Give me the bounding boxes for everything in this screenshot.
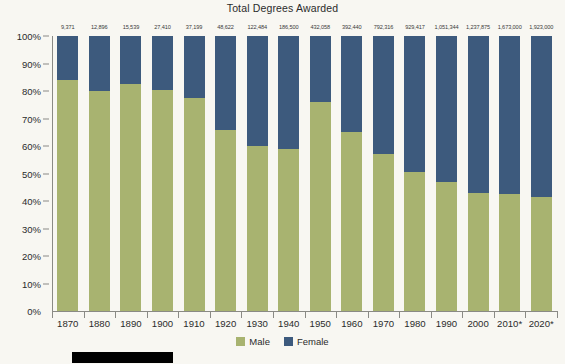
bar-1910: [184, 36, 205, 311]
bar-segment-male: [184, 98, 205, 311]
y-axis-tick: [43, 63, 49, 64]
x-axis-tick: [52, 311, 53, 318]
y-axis-label: 100%: [17, 31, 41, 42]
x-axis-tick: [525, 311, 526, 318]
bar-segment-female: [310, 36, 331, 102]
y-axis-tick: [43, 228, 49, 229]
x-axis-tick: [84, 311, 85, 318]
x-axis-tick: [178, 311, 179, 318]
y-axis-label: 70%: [22, 113, 41, 124]
bar-segment-male: [247, 146, 268, 311]
bar-1990: [436, 36, 457, 311]
y-axis-tick: [43, 173, 49, 174]
x-axis-tick: [368, 311, 369, 318]
bar-1900: [152, 36, 173, 311]
y-axis-tick: [43, 118, 49, 119]
bar-segment-female: [152, 36, 173, 90]
y-axis-label: 60%: [22, 141, 41, 152]
x-axis-tick: [557, 311, 558, 318]
bar-segment-female: [184, 36, 205, 98]
bar-segment-male: [373, 154, 394, 311]
bar-segment-male: [531, 197, 552, 311]
bar-1920: [215, 36, 236, 311]
bar-segment-male: [57, 80, 78, 311]
bar-segment-female: [247, 36, 268, 146]
bar-segment-female: [531, 36, 552, 197]
bar-1940: [278, 36, 299, 311]
bar-segment-male: [89, 91, 110, 311]
y-axis-label: 90%: [22, 58, 41, 69]
y-axis-label: 0%: [27, 306, 41, 317]
bar-segment-female: [89, 36, 110, 91]
bar-segment-female: [120, 36, 141, 84]
legend-label: Female: [297, 336, 329, 347]
bar-segment-male: [499, 194, 520, 311]
bar-segment-male: [404, 172, 425, 311]
x-axis-tick: [336, 311, 337, 318]
legend-label: Male: [249, 336, 270, 347]
y-axis-label: 20%: [22, 251, 41, 262]
y-axis-label: 30%: [22, 223, 41, 234]
bar-segment-female: [278, 36, 299, 149]
y-axis-label: 80%: [22, 86, 41, 97]
bar-2010: [499, 36, 520, 311]
x-axis-tick: [305, 311, 306, 318]
chart-title: Total Degrees Awarded: [0, 2, 565, 14]
x-axis-tick: [494, 311, 495, 318]
bar-1930: [247, 36, 268, 311]
bar-2020: [531, 36, 552, 311]
bar-segment-male: [120, 84, 141, 311]
bar-segment-female: [436, 36, 457, 182]
bar-segment-female: [404, 36, 425, 172]
bar-1970: [373, 36, 394, 311]
legend-item-male[interactable]: Male: [236, 336, 270, 347]
footer-black-bar: [72, 352, 173, 363]
bar-segment-female: [373, 36, 394, 154]
y-axis-tick: [43, 256, 49, 257]
chart-legend: MaleFemale: [0, 336, 565, 347]
bar-1960: [341, 36, 362, 311]
x-axis-tick: [273, 311, 274, 318]
bar-segment-male: [152, 90, 173, 311]
x-axis-label: 2020*: [519, 318, 563, 329]
bar-1870: [57, 36, 78, 311]
y-axis-label: 10%: [22, 278, 41, 289]
bar-2000: [468, 36, 489, 311]
bar-segment-female: [341, 36, 362, 132]
y-axis: 0%10%20%30%40%50%60%70%80%90%100%: [0, 36, 52, 311]
bar-segment-male: [341, 132, 362, 311]
bar-segment-female: [499, 36, 520, 194]
bar-segment-male: [436, 182, 457, 311]
y-axis-tick: [43, 146, 49, 147]
y-axis-label: 40%: [22, 196, 41, 207]
legend-swatch-female: [284, 337, 293, 346]
x-axis-tick: [210, 311, 211, 318]
y-axis-tick: [43, 283, 49, 284]
y-axis-tick: [43, 201, 49, 202]
y-axis-label: 50%: [22, 168, 41, 179]
legend-swatch-male: [236, 337, 245, 346]
legend-item-female[interactable]: Female: [284, 336, 329, 347]
x-axis-tick: [147, 311, 148, 318]
bar-1980: [404, 36, 425, 311]
x-axis-tick: [462, 311, 463, 318]
x-axis-tick: [399, 311, 400, 318]
bar-1950: [310, 36, 331, 311]
bar-segment-female: [57, 36, 78, 80]
y-axis-tick: [43, 36, 49, 37]
x-axis-tick: [431, 311, 432, 318]
x-axis-tick: [241, 311, 242, 318]
bar-1890: [120, 36, 141, 311]
plot-area: [52, 36, 557, 311]
bar-total-label: 1,923,000: [521, 24, 561, 30]
chart-root: Total Degrees Awarded 0%10%20%30%40%50%6…: [0, 0, 565, 364]
x-axis-tick: [115, 311, 116, 318]
y-axis-tick: [43, 91, 49, 92]
bar-segment-male: [278, 149, 299, 311]
bar-segment-female: [215, 36, 236, 130]
bar-segment-male: [468, 193, 489, 311]
bar-1880: [89, 36, 110, 311]
bar-segment-male: [215, 130, 236, 312]
bar-segment-female: [468, 36, 489, 193]
bar-segment-male: [310, 102, 331, 311]
